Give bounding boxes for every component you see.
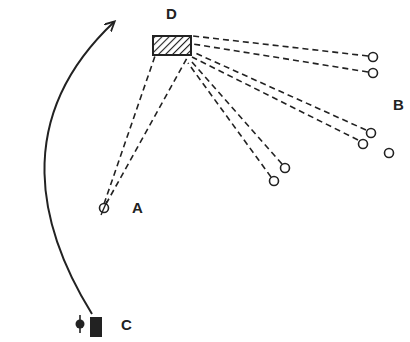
circle-b-1: [369, 53, 378, 62]
circle-b-5: [281, 164, 290, 173]
label-c: C: [121, 316, 132, 333]
movement-arrow: [44, 22, 114, 314]
pin-icon: [76, 320, 85, 329]
target-box-d: [153, 36, 191, 55]
start-marker-c: [76, 315, 103, 337]
circles-b: [270, 53, 394, 186]
circle-b-2: [369, 69, 378, 78]
label-d: D: [166, 5, 177, 22]
circle-b-3: [367, 129, 376, 138]
dashed-lines-a-to-d: [104, 56, 187, 204]
label-b: B: [393, 96, 404, 113]
dashed-lines-b-to-d: [188, 36, 368, 177]
circle-b-extra: [385, 149, 394, 158]
label-a: A: [132, 199, 143, 216]
circle-b-6: [270, 177, 279, 186]
circle-b-4: [359, 140, 368, 149]
block-c: [90, 317, 102, 337]
diagram-canvas: D B A C: [0, 0, 410, 342]
